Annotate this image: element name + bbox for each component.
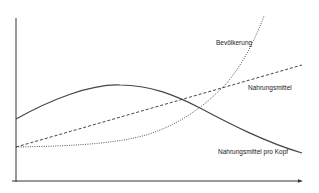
label-food: Nahrungsmittel <box>248 85 292 92</box>
label-population: Bevölkerung <box>216 40 252 47</box>
chart-canvas <box>0 0 319 193</box>
x-axis-arrow-icon <box>298 179 303 182</box>
series-population-line <box>16 16 264 147</box>
series-food-line <box>16 65 302 147</box>
series-food-per-capita-line <box>16 85 302 153</box>
label-food-per-capita: Nahrungsmittel pro Kopf <box>218 149 288 156</box>
